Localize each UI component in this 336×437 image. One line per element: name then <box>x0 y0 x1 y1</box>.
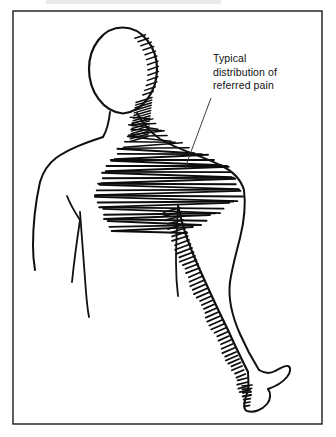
neck-left-outline <box>103 112 110 137</box>
callout-leader-line <box>185 98 211 168</box>
arm-right-inner-outline <box>178 206 248 372</box>
arm-left-inner-outline <box>72 220 80 282</box>
callout-text-line-1: Typical <box>213 52 246 64</box>
callout-text-line-3: referred pain <box>213 79 274 91</box>
illustration-canvas: Typical distribution of referred pain <box>0 0 336 437</box>
shoulder-left-outline <box>40 137 103 182</box>
referred-pain-diagram: Typical distribution of referred pain <box>0 0 336 437</box>
torso-side-left-outline <box>80 212 89 317</box>
thumb-outline <box>259 366 290 389</box>
arm-left-outer-outline <box>33 182 40 270</box>
callout-text-line-2: distribution of <box>213 66 277 78</box>
head-outline <box>89 28 157 114</box>
scan-artifact <box>46 0 221 4</box>
armpit-crease-left <box>67 196 80 220</box>
